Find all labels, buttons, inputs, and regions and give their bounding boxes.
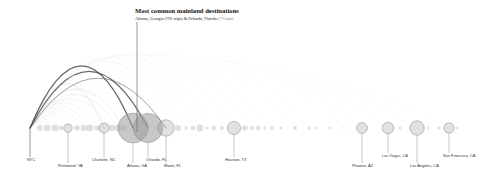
arc-layer <box>30 54 449 128</box>
minor-node <box>175 125 181 131</box>
flow-arc <box>30 83 104 128</box>
annotation-title: Most common mainland destinations <box>135 7 239 14</box>
minor-node <box>293 126 297 130</box>
city-label: NYC <box>27 157 35 162</box>
minor-node <box>264 127 267 130</box>
city-label: Houston, TX <box>225 157 247 162</box>
city-node[interactable] <box>227 121 240 134</box>
label-layer: NYCRichmond, VACharlotte, NCAtlanta, GAO… <box>27 128 476 168</box>
city-label: Atlanta, GA <box>127 163 147 168</box>
minor-node <box>437 126 441 130</box>
city-label: Los Angeles, CA <box>410 163 439 168</box>
minor-node <box>329 127 332 130</box>
city-node[interactable] <box>99 123 109 133</box>
node-layer <box>37 113 458 143</box>
minor-node <box>109 125 115 131</box>
minor-node <box>426 126 429 129</box>
minor-node <box>81 125 88 132</box>
minor-node <box>307 126 310 129</box>
minor-node <box>212 126 216 130</box>
minor-node <box>250 126 254 130</box>
flow-arc <box>30 58 362 128</box>
minor-node <box>44 125 51 132</box>
annotation-subtitle-trips: (775 trips) <box>218 17 234 21</box>
minor-node <box>51 124 58 131</box>
city-node[interactable] <box>410 121 424 135</box>
city-node[interactable] <box>357 123 368 134</box>
city-label: Miami, FL <box>164 163 182 168</box>
city-label: Phoenix, AZ <box>352 163 374 168</box>
flow-arc <box>30 56 344 128</box>
minor-node <box>343 127 345 129</box>
annotation-subtitle: Atlanta, Georgia (791 trips) & Orlando, … <box>135 16 234 22</box>
minor-node <box>270 126 274 130</box>
city-label: Orlando, FL <box>146 157 167 162</box>
minor-node <box>399 127 402 130</box>
minor-node <box>205 126 208 129</box>
city-label: San Francisco, CA <box>443 153 476 158</box>
city-label: Las Vegas, CA <box>382 153 408 158</box>
minor-node <box>197 125 204 132</box>
arc-diagram-canvas: NYCRichmond, VACharlotte, NCAtlanta, GAO… <box>0 0 489 182</box>
city-node[interactable] <box>444 123 454 133</box>
minor-node <box>220 126 224 130</box>
minor-node <box>86 124 93 131</box>
city-node[interactable] <box>382 122 394 134</box>
city-node[interactable] <box>158 120 174 136</box>
city-label: Richmond, VA <box>58 163 83 168</box>
minor-node <box>456 127 459 130</box>
minor-node <box>315 127 317 129</box>
minor-node <box>74 125 80 131</box>
minor-node <box>242 125 248 131</box>
city-label: Charlotte, NC <box>92 157 116 162</box>
minor-node <box>191 126 196 131</box>
minor-node <box>256 126 261 131</box>
minor-node <box>59 126 64 131</box>
minor-node <box>37 125 43 131</box>
city-node[interactable] <box>64 124 72 132</box>
minor-node <box>184 126 187 129</box>
minor-node <box>280 127 283 130</box>
arc-diagram-figure: NYCRichmond, VACharlotte, NCAtlanta, GAO… <box>0 0 489 182</box>
